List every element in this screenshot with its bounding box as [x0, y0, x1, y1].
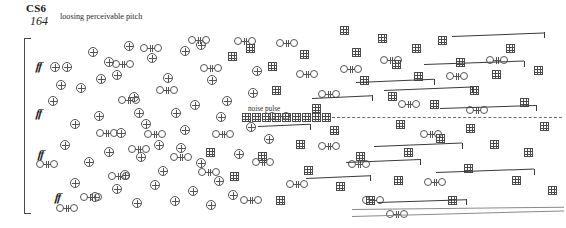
noise-pulse-dashed-line: [332, 117, 562, 118]
measure-number: 164: [30, 14, 48, 29]
circled-plus-notehead-icon: [70, 178, 80, 188]
noise-grid-notehead-icon: [394, 176, 403, 185]
circled-plus-notehead-icon: [264, 134, 274, 144]
noise-grid-notehead-icon: [378, 34, 387, 43]
circled-plus-notehead-icon: [252, 66, 262, 76]
beam-end-hook: [310, 124, 311, 130]
noise-pulse-square-icon: [262, 113, 271, 122]
double-circle-notehead-icon: [128, 145, 150, 154]
duration-beam: [258, 124, 310, 127]
noise-grid-notehead-icon: [356, 152, 365, 161]
noise-grid-notehead-icon: [312, 104, 321, 113]
noise-grid-notehead-icon: [296, 140, 305, 149]
beam-end-hook: [372, 95, 373, 101]
circled-plus-notehead-icon: [158, 166, 168, 176]
noise-grid-notehead-icon: [268, 62, 277, 71]
circled-plus-notehead-icon: [190, 100, 200, 110]
noise-pulse-square-icon: [312, 113, 321, 122]
circled-plus-notehead-icon: [124, 41, 134, 51]
double-circle-notehead-icon: [118, 96, 140, 105]
noise-grid-notehead-icon: [272, 86, 281, 95]
double-circle-notehead-icon: [340, 65, 362, 74]
circled-plus-notehead-icon: [70, 119, 80, 129]
noise-grid-notehead-icon: [548, 186, 557, 195]
beam-end-hook: [534, 169, 535, 175]
dynamic-marking: ff: [54, 191, 60, 203]
circled-plus-notehead-icon: [132, 198, 142, 208]
beam-end-hook: [472, 87, 473, 93]
circled-plus-notehead-icon: [228, 190, 238, 200]
beam-end-hook: [544, 32, 545, 38]
noise-grid-notehead-icon: [430, 100, 439, 109]
noise-grid-notehead-icon: [412, 44, 421, 53]
circled-plus-notehead-icon: [188, 186, 198, 196]
circled-plus-notehead-icon: [50, 62, 60, 72]
beam-end-hook: [434, 79, 435, 85]
noise-grid-notehead-icon: [388, 92, 397, 101]
hairpin-line: [352, 210, 564, 217]
dynamic-marking: ff: [37, 148, 43, 160]
noise-grid-notehead-icon: [436, 134, 445, 143]
noise-pulse-square-icon: [272, 113, 281, 122]
double-circle-notehead-icon: [276, 39, 298, 48]
noise-grid-notehead-icon: [340, 26, 349, 35]
noise-grid-notehead-icon: [392, 60, 401, 69]
circled-plus-notehead-icon: [76, 83, 86, 93]
noise-grid-notehead-icon: [492, 70, 501, 79]
circled-plus-notehead-icon: [147, 53, 157, 63]
circled-plus-notehead-icon: [94, 111, 104, 121]
noise-grid-notehead-icon: [258, 152, 267, 161]
beam-end-hook: [420, 159, 421, 165]
noise-grid-notehead-icon: [396, 120, 405, 129]
noise-grid-notehead-icon: [336, 182, 345, 191]
double-circle-notehead-icon: [200, 64, 222, 73]
noise-grid-notehead-icon: [512, 176, 521, 185]
noise-grid-notehead-icon: [352, 48, 361, 57]
noise-pulse-square-icon: [242, 113, 251, 122]
double-circle-notehead-icon: [56, 204, 78, 213]
circled-plus-notehead-icon: [150, 180, 160, 190]
page-title: CS6: [26, 2, 46, 14]
noise-grid-notehead-icon: [438, 36, 447, 45]
noise-grid-notehead-icon: [366, 196, 375, 205]
double-circle-notehead-icon: [198, 168, 220, 177]
noise-pulse-square-icon: [252, 113, 261, 122]
dynamic-marking: ff: [35, 107, 41, 119]
noise-pulse-label: noise pulse: [248, 105, 280, 113]
noise-grid-notehead-icon: [206, 148, 215, 157]
double-circle-notehead-icon: [286, 180, 308, 189]
noise-grid-notehead-icon: [466, 124, 475, 133]
double-circle-notehead-icon: [112, 60, 134, 69]
circled-plus-notehead-icon: [84, 157, 94, 167]
performance-note: loosing perceivable pitch: [60, 12, 142, 21]
circled-plus-notehead-icon: [180, 125, 190, 135]
score-page: CS6 164 loosing perceivable pitch ffffff…: [0, 0, 566, 228]
circled-plus-notehead-icon: [170, 196, 180, 206]
double-circle-notehead-icon: [170, 153, 192, 162]
double-circle-notehead-icon: [318, 142, 340, 151]
circled-plus-notehead-icon: [88, 47, 98, 57]
duration-beam: [452, 32, 544, 37]
circled-plus-notehead-icon: [234, 149, 244, 159]
noise-grid-notehead-icon: [230, 172, 239, 181]
beam-end-hook: [524, 61, 525, 67]
circled-plus-notehead-icon: [104, 147, 114, 157]
circled-plus-notehead-icon: [62, 62, 72, 72]
circled-plus-notehead-icon: [163, 73, 173, 83]
dynamic-marking: ff: [35, 60, 41, 72]
circled-plus-notehead-icon: [207, 75, 217, 85]
circled-plus-notehead-icon: [141, 119, 151, 129]
double-circle-notehead-icon: [212, 130, 234, 139]
circled-plus-notehead-icon: [48, 96, 58, 106]
noise-grid-notehead-icon: [534, 66, 543, 75]
noise-grid-notehead-icon: [524, 148, 533, 157]
noise-grid-notehead-icon: [304, 166, 313, 175]
noise-grid-notehead-icon: [540, 122, 549, 131]
circled-plus-notehead-icon: [248, 88, 258, 98]
circled-plus-notehead-icon: [222, 96, 232, 106]
noise-grid-notehead-icon: [228, 52, 237, 61]
double-circle-notehead-icon: [156, 86, 178, 95]
double-circle-notehead-icon: [424, 178, 446, 187]
circled-plus-notehead-icon: [60, 140, 70, 150]
double-circle-notehead-icon: [80, 193, 102, 202]
